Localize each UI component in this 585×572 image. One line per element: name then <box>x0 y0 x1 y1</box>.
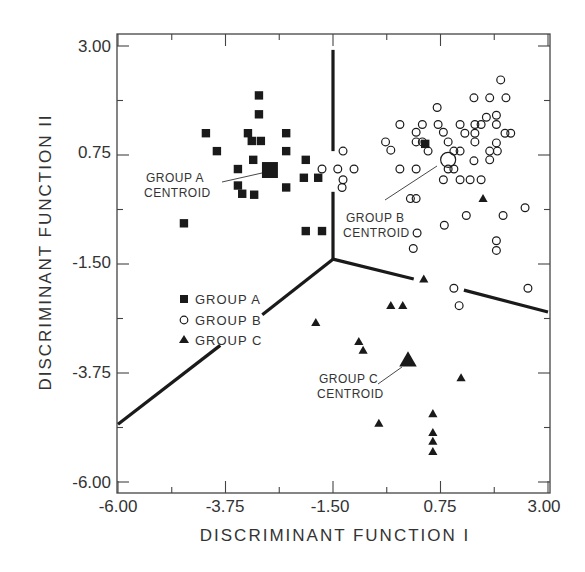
circle-marker-icon <box>486 147 494 155</box>
x-tick-label-3: 3.00 <box>527 497 560 516</box>
annot-a-leader <box>222 173 262 182</box>
square-marker-icon <box>249 156 257 164</box>
square-marker-icon <box>248 137 256 145</box>
triangle-marker-icon <box>311 318 320 326</box>
y-tick-label-3: 3.00 <box>78 37 111 56</box>
square-marker-icon <box>300 174 308 182</box>
square-marker-icon <box>250 191 258 199</box>
circle-marker-icon <box>338 184 346 192</box>
centroid-annotations: GROUP A CENTROID GROUP B CENTROID GROUP … <box>144 166 437 401</box>
legend-label-b: GROUP B <box>195 313 262 328</box>
boundary-line <box>464 290 548 312</box>
circle-marker-icon <box>462 212 470 220</box>
annot-c-line1: GROUP C <box>319 372 378 386</box>
legend-marker-triangle-icon <box>179 335 189 343</box>
square-marker-icon <box>202 129 210 137</box>
square-marker-icon <box>302 227 310 235</box>
circle-marker-icon <box>387 146 395 154</box>
circle-marker-icon <box>396 121 404 129</box>
boundary-line <box>262 259 333 315</box>
triangle-marker-icon <box>419 274 428 282</box>
square-marker-icon <box>255 91 263 99</box>
triangle-marker-icon <box>428 428 437 436</box>
circle-marker-icon <box>486 156 494 164</box>
circle-marker-icon <box>418 121 426 129</box>
circle-marker-icon <box>493 121 501 129</box>
circle-marker-icon <box>396 165 404 173</box>
x-tick-label-0.75: 0.75 <box>423 497 456 516</box>
circle-marker-icon <box>470 94 478 102</box>
circle-marker-icon <box>502 94 510 102</box>
circle-marker-icon <box>486 94 494 102</box>
square-marker-icon <box>255 110 263 118</box>
triangle-marker-icon <box>354 337 363 345</box>
legend-marker-circle-icon <box>180 316 188 324</box>
annot-b-line1: GROUP B <box>346 211 405 225</box>
circle-marker-icon <box>493 147 501 155</box>
circle-marker-icon <box>497 76 505 84</box>
circle-marker-icon <box>493 247 501 255</box>
triangle-marker-icon <box>374 419 383 427</box>
triangle-marker-icon <box>428 437 437 445</box>
circle-marker-icon <box>440 221 448 229</box>
circle-marker-icon <box>450 284 458 292</box>
circle-marker-icon <box>433 104 441 112</box>
circle-marker-icon <box>493 111 501 119</box>
circle-marker-icon <box>424 147 432 155</box>
triangle-marker-icon <box>386 301 395 309</box>
circle-marker-icon <box>521 204 529 212</box>
circle-marker-icon <box>412 128 420 136</box>
triangle-marker-icon <box>428 409 437 417</box>
triangle-marker-icon <box>478 194 487 202</box>
square-marker-icon <box>318 227 326 235</box>
triangle-marker-icon <box>359 346 368 354</box>
circle-marker-icon <box>339 176 347 184</box>
circle-marker-icon <box>477 176 485 184</box>
circle-marker-icon <box>482 113 490 121</box>
circle-marker-icon <box>456 121 464 129</box>
circle-marker-icon <box>382 138 390 146</box>
square-marker-icon <box>238 190 246 198</box>
circle-marker-icon <box>466 176 474 184</box>
circle-marker-icon <box>471 129 479 137</box>
x-tick-label-m6: -6.00 <box>99 497 138 516</box>
circle-marker-icon <box>413 229 421 237</box>
y-tick-label-0.75: 0.75 <box>78 143 111 162</box>
square-marker-icon <box>282 147 290 155</box>
square-marker-icon <box>244 129 252 137</box>
annot-a-line1: GROUP A <box>146 171 204 185</box>
square-marker-icon <box>282 129 290 137</box>
triangle-marker-icon <box>456 373 465 381</box>
circle-marker-icon <box>470 157 478 165</box>
square-marker-icon <box>282 183 290 191</box>
y-tick-label-m1.5: -1.50 <box>72 253 111 272</box>
circle-marker-icon <box>434 121 442 129</box>
circle-marker-icon <box>339 147 347 155</box>
circle-marker-icon <box>471 138 479 146</box>
x-axis-title: DISCRIMINANT FUNCTION I <box>200 526 470 545</box>
square-marker-icon <box>302 156 310 164</box>
boundary-line <box>333 259 414 279</box>
circle-marker-icon <box>499 212 507 220</box>
legend-label-c: GROUP C <box>195 333 262 348</box>
legend-label-a: GROUP A <box>195 292 261 307</box>
triangle-marker-icon <box>398 301 407 309</box>
y-tick-label-m3.75: -3.75 <box>72 363 111 382</box>
circle-marker-icon <box>318 165 326 173</box>
circle-marker-icon <box>409 245 417 253</box>
circle-marker-icon <box>461 129 469 137</box>
group-boundaries <box>118 50 548 424</box>
circle-marker-icon <box>455 302 463 310</box>
legend-marker-square-icon <box>180 295 188 303</box>
tick-labels: 3.00 0.75 -1.50 -3.75 -6.00 -6.00 -3.75 … <box>72 37 560 516</box>
circle-marker-icon <box>444 138 452 146</box>
circle-marker-icon <box>439 176 447 184</box>
triangle-marker-icon <box>428 447 437 455</box>
circle-marker-icon <box>493 139 501 147</box>
annot-a-line2: CENTROID <box>144 186 211 200</box>
centroid-triangle-icon <box>399 351 416 366</box>
circle-marker-icon <box>412 195 420 203</box>
square-marker-icon <box>234 181 242 189</box>
square-marker-icon <box>314 174 322 182</box>
square-marker-icon <box>213 147 221 155</box>
